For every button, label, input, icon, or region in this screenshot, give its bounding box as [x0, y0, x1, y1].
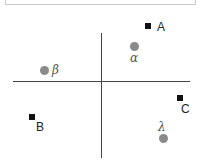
top-panel-border [5, 0, 196, 5]
point-a-square [145, 23, 151, 29]
vertical-axis [101, 33, 102, 158]
point-b-square [29, 114, 35, 120]
point-beta-circle [40, 66, 49, 75]
point-lambda-circle [159, 134, 168, 143]
horizontal-axis [13, 81, 190, 82]
point-lambda-label: λ [158, 121, 166, 133]
point-alpha-label: α [130, 52, 138, 64]
point-alpha-circle [130, 42, 139, 51]
point-beta-label: β [52, 64, 59, 76]
point-b-label: B [36, 121, 44, 133]
point-c-square [177, 95, 183, 101]
point-c-label: C [181, 103, 190, 115]
point-a-label: A [157, 21, 165, 33]
